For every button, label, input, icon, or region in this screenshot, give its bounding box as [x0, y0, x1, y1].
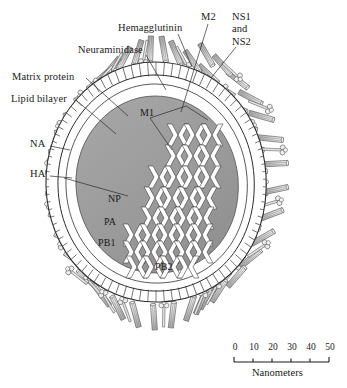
label-np: NP: [108, 193, 121, 205]
label-na: NA: [30, 138, 45, 150]
scale-tick-20: 20: [265, 342, 281, 352]
label-ns1: NS1: [232, 11, 251, 23]
label-neuraminidase: Neuraminidase: [78, 44, 143, 56]
scale-bar: [234, 357, 329, 362]
scale-tick-40: 40: [303, 342, 319, 352]
label-pa: PA: [104, 216, 116, 228]
label-ns2: NS2: [232, 36, 251, 48]
scale-tick-50: 50: [322, 342, 338, 352]
label-ha: HA: [30, 168, 45, 180]
label-ns1-and-ns2: NS1 and NS2: [232, 11, 251, 48]
label-matrix-protein: Matrix protein: [12, 71, 74, 83]
scale-tick-10: 10: [246, 342, 262, 352]
label-hemagglutinin: Hemagglutinin: [118, 22, 182, 34]
scale-tick-0: 0: [229, 342, 241, 352]
influenza-virus-diagram: Hemagglutinin Neuraminidase Matrix prote…: [0, 0, 347, 388]
label-pb1: PB1: [98, 237, 116, 249]
label-m1: M1: [140, 107, 154, 119]
scale-bar-caption: Nanometers: [252, 367, 303, 378]
label-pb2: PB2: [155, 261, 173, 273]
label-lipid-bilayer: Lipid bilayer: [11, 93, 67, 105]
virus-illustration: [0, 0, 347, 388]
label-m2: M2: [201, 11, 216, 23]
scale-tick-30: 30: [284, 342, 300, 352]
label-and: and: [232, 23, 251, 35]
